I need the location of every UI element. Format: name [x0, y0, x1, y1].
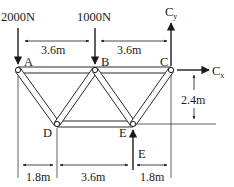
pin-E — [130, 121, 135, 126]
pin-B — [92, 67, 97, 72]
load-label-A: 2000N — [1, 10, 35, 24]
pin-D — [54, 121, 59, 126]
dim-label-top-right: 3.6m — [117, 43, 142, 57]
truss-diagram: 2000N 1000N A B C D E Cy Cx E 3.6m 3.6m … — [0, 0, 234, 187]
joint-label-A: A — [24, 55, 33, 69]
dim-label-bottom-middle: 3.6m — [81, 170, 106, 184]
reaction-label-Cx: Cx — [212, 64, 224, 80]
joint-label-E: E — [119, 126, 127, 140]
dim-label-top-left: 3.6m — [41, 43, 66, 57]
dim-label-bottom-right: 1.8m — [140, 170, 165, 184]
joint-label-D: D — [43, 126, 52, 140]
reaction-label-E: E — [138, 147, 146, 161]
load-label-B: 1000N — [77, 10, 111, 24]
member-A-D — [16, 68, 60, 126]
dim-label-height: 2.4m — [181, 93, 206, 107]
member-D-B — [55, 68, 98, 126]
dim-label-bottom-left: 1.8m — [26, 170, 51, 184]
member-E-C — [131, 68, 174, 126]
joint-label-B: B — [101, 55, 109, 69]
joint-label-C: C — [160, 55, 168, 69]
pin-A — [15, 67, 20, 72]
member-B-E — [93, 68, 136, 126]
truss-members — [16, 67, 174, 127]
reaction-label-Cy: Cy — [165, 5, 177, 21]
pin-C — [168, 67, 173, 72]
